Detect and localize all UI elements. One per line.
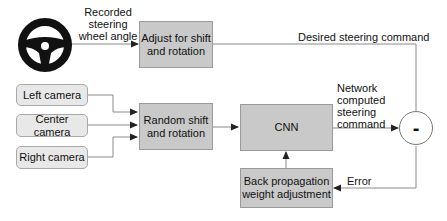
desired-steering-label: Desired steering command [298,31,429,43]
recorded-line-1: Recorded [78,6,138,18]
network-line-2: computed [337,94,385,106]
right-camera-block: Right camera [16,146,88,169]
recorded-line-2: steering [78,18,138,30]
random-shift-rotation-block: Random shift and rotation [139,103,213,150]
subtract-junction: - [399,111,433,145]
random-shift-line-1: Random shift [144,114,209,127]
recorded-angle-label: Recorded steering wheel angle [78,6,138,42]
recorded-line-3: wheel angle [78,30,138,42]
error-label: Error [347,175,371,187]
random-shift-line-2: and rotation [144,127,209,140]
backprop-line-2: weight adjustment [242,188,331,201]
backprop-line-1: Back propagation [242,175,331,188]
center-camera-block: Center camera [16,114,88,137]
adjust-shift-rotation-block: Adjust for shift and rotation [139,21,213,68]
network-line-1: Network [337,82,385,94]
network-line-3: steering [337,106,385,118]
network-computed-label: Network computed steering command [337,82,385,130]
left-camera-block: Left camera [16,84,88,106]
adjust-line-1: Adjust for shift [141,32,211,45]
steering-wheel-icon [17,17,73,73]
network-line-4: command [337,118,385,130]
cnn-block: CNN [240,104,333,151]
backprop-block: Back propagation weight adjustment [240,168,333,208]
adjust-line-2: and rotation [141,45,211,58]
